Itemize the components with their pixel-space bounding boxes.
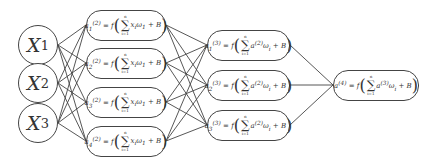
- open-paren: (: [234, 76, 240, 95]
- node-subscript: 3: [41, 116, 49, 131]
- sum-symbol: n∑i=1: [241, 74, 250, 97]
- hidden1-node-1: a1(2) = f ( n∑i=1 xiω1 + B ): [86, 10, 166, 41]
- hidden2-node-1: a1(3) = f ( n∑i=1 a(2)ωi + B ): [207, 30, 290, 61]
- input-node-x2: X2: [18, 63, 58, 103]
- close-paren: ): [286, 76, 292, 95]
- open-paren: (: [114, 93, 120, 112]
- formula-lhs: a2(3) = f: [205, 80, 234, 92]
- hidden2-node-3: a3(3) = f ( n∑i=1 a(2)ωi + B ): [207, 110, 290, 141]
- node-subscript: 1: [41, 38, 49, 53]
- formula-term: xiω1 + B: [130, 59, 161, 68]
- formula-term: a(2)ωi + B: [251, 40, 287, 52]
- open-paren: (: [114, 54, 120, 73]
- formula-term: xiω1 + B: [130, 98, 161, 107]
- output-node: a(4) = f ( n∑i=1 a(3)ωi + B ): [333, 70, 419, 101]
- formula-lhs: a1(2) = f: [85, 20, 114, 32]
- close-paren: ): [161, 132, 167, 151]
- sum-symbol: n∑i=1: [121, 14, 130, 37]
- sum-symbol: n∑i=1: [121, 130, 130, 153]
- open-paren: (: [359, 76, 365, 95]
- open-paren: (: [234, 36, 240, 55]
- input-node-x3: X3: [18, 103, 58, 143]
- hidden1-node-2: a2(2) = f ( n∑i=1 xiω1 + B ): [86, 48, 166, 79]
- close-paren: ): [161, 16, 167, 35]
- formula-lhs: a3(2) = f: [85, 97, 114, 109]
- open-paren: (: [114, 132, 120, 151]
- sum-symbol: n∑i=1: [367, 74, 376, 97]
- open-paren: (: [114, 16, 120, 35]
- close-paren: ): [161, 93, 167, 112]
- sum-symbol: n∑i=1: [121, 91, 130, 114]
- close-paren: ): [412, 76, 418, 95]
- formula-lhs: a1(3) = f: [205, 40, 234, 52]
- formula-lhs: a(4) = f: [334, 80, 359, 90]
- node-label: X: [27, 112, 41, 134]
- node-label: X: [27, 34, 41, 56]
- formula-term: xiω1 + B: [130, 137, 161, 146]
- sum-symbol: n∑i=1: [241, 114, 250, 137]
- hidden2-node-2: a2(3) = f ( n∑i=1 a(2)ωi + B ): [207, 70, 290, 101]
- formula-lhs: a3(3) = f: [205, 120, 234, 132]
- close-paren: ): [286, 36, 292, 55]
- close-paren: ): [161, 54, 167, 73]
- sum-symbol: n∑i=1: [241, 34, 250, 57]
- input-node-x1: X1: [18, 25, 58, 65]
- open-paren: (: [234, 116, 240, 135]
- formula-lhs: a2(2) = f: [85, 58, 114, 70]
- formula-lhs: a4(2) = f: [85, 136, 114, 148]
- formula-term: a(2)ωi + B: [251, 80, 287, 92]
- node-subscript: 2: [41, 76, 49, 91]
- close-paren: ): [286, 116, 292, 135]
- sum-symbol: n∑i=1: [121, 52, 130, 75]
- formula-term: a(2)ωi + B: [251, 120, 287, 132]
- formula-term: a(3)ωi + B: [376, 80, 412, 92]
- hidden1-node-4: a4(2) = f ( n∑i=1 xiω1 + B ): [86, 126, 166, 157]
- node-label: X: [27, 72, 41, 94]
- formula-term: xiω1 + B: [130, 21, 161, 30]
- hidden1-node-3: a3(2) = f ( n∑i=1 xiω1 + B ): [86, 87, 166, 118]
